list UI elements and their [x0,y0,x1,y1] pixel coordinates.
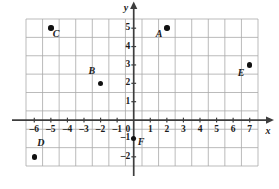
x-tick-label: 2 [164,125,169,135]
point-label-e: E [238,68,245,78]
y-tick-label: 1 [125,97,130,107]
y-tick-label: 3 [125,60,130,70]
y-tick-label: –2 [121,152,131,162]
point-label-c: C [53,29,60,39]
data-point-d [32,154,37,159]
point-label-f: F [138,137,145,147]
y-tick-label: –1 [121,133,131,143]
data-point-a [164,25,169,30]
x-tick-label: 7 [247,125,252,135]
origin-label: 0 [125,125,130,135]
x-tick-label: 3 [181,125,186,135]
x-axis-name-label: x [266,126,271,136]
plot-canvas [0,0,279,189]
point-label-a: A [156,29,163,39]
data-point-e [247,62,252,67]
x-tick-label: 1 [148,125,153,135]
x-tick-label: –4 [63,125,73,135]
x-axis-arrow-icon [266,116,274,123]
x-tick-label: –2 [96,125,106,135]
point-label-b: B [89,66,96,76]
x-tick-label: –3 [79,125,89,135]
x-tick-label: –5 [46,125,56,135]
x-tick-label: 5 [214,125,219,135]
x-tick-label: 6 [231,125,236,135]
coordinate-plane-figure: –6–5–4–3–2–1123456754321–1–20xyABCDEF [0,0,279,189]
x-tick-label: –6 [30,125,40,135]
y-axis-name-label: y [124,3,128,13]
y-axis-arrow-icon [130,2,137,10]
point-label-d: D [37,138,44,148]
y-tick-label: 5 [125,23,130,33]
x-tick-label: 4 [198,125,203,135]
y-tick-label: 2 [125,78,130,88]
y-tick-label: 4 [125,42,130,52]
